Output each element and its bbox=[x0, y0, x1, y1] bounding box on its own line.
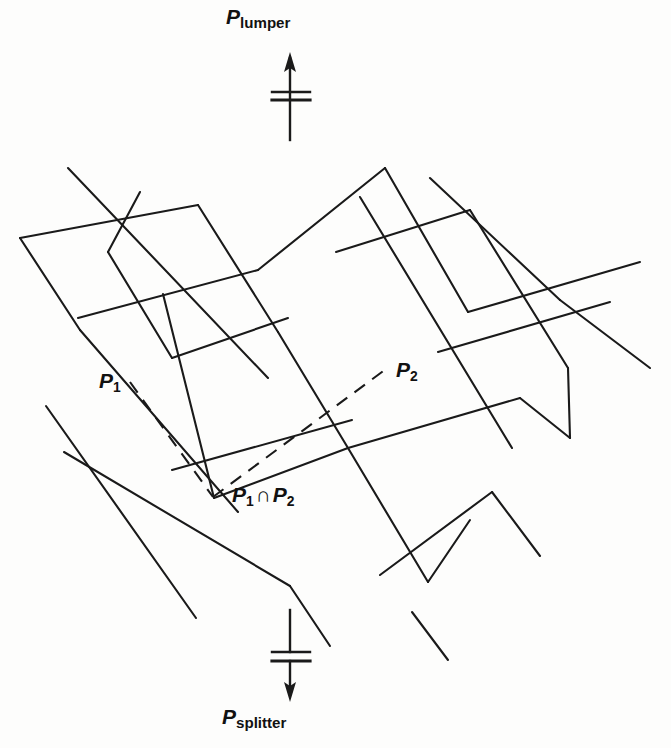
label-intersect-left-subscript: 1 bbox=[246, 493, 254, 509]
label-p1-intersect-p2: P1∩P2 bbox=[232, 484, 295, 509]
lattice-line bbox=[468, 262, 640, 312]
label-p2-symbol: P bbox=[396, 358, 410, 381]
lattice-line bbox=[428, 520, 470, 582]
label-intersect-right-symbol: P bbox=[273, 483, 287, 506]
splitter-arrow-symbol bbox=[272, 610, 310, 702]
lattice-line bbox=[20, 238, 80, 330]
lattice-line bbox=[385, 168, 468, 312]
lattice-line bbox=[290, 586, 330, 646]
lattice-line bbox=[560, 300, 650, 368]
label-p2: P2 bbox=[396, 359, 418, 384]
label-p-lumper: Plumper bbox=[226, 6, 290, 30]
lattice-line bbox=[520, 398, 570, 438]
lattice-line bbox=[64, 452, 290, 586]
label-p1-symbol: P bbox=[99, 369, 113, 392]
lattice-line bbox=[172, 318, 288, 358]
lattice-line bbox=[438, 302, 610, 352]
lattice-solid-lines bbox=[20, 168, 650, 660]
lumper-arrow-symbol bbox=[272, 52, 310, 140]
label-intersect-right-subscript: 2 bbox=[287, 493, 295, 509]
label-p-splitter-symbol: P bbox=[222, 705, 236, 728]
lattice-line bbox=[470, 210, 568, 368]
lattice-line bbox=[198, 205, 278, 332]
lattice-line bbox=[568, 368, 570, 438]
label-intersect-left-symbol: P bbox=[232, 483, 246, 506]
lattice-line bbox=[108, 192, 140, 252]
label-p-splitter: Psplitter bbox=[222, 706, 286, 730]
lattice-line bbox=[492, 492, 540, 556]
lattice-line bbox=[380, 492, 492, 575]
lattice-line bbox=[68, 168, 268, 378]
p2-dashed-line bbox=[213, 369, 386, 497]
label-p2-subscript: 2 bbox=[410, 368, 418, 384]
label-p1: P1 bbox=[99, 370, 121, 395]
label-p-lumper-symbol: P bbox=[226, 5, 240, 28]
lattice-line bbox=[258, 168, 385, 270]
lattice-line bbox=[172, 420, 352, 470]
lattice-line bbox=[163, 294, 214, 498]
intersection-operator-icon: ∩ bbox=[254, 483, 273, 506]
label-p-splitter-subscript: splitter bbox=[236, 714, 286, 731]
lattice-line bbox=[348, 448, 428, 582]
p1-dashed-line bbox=[130, 382, 213, 497]
lattice-line bbox=[412, 612, 448, 660]
label-p-lumper-subscript: lumper bbox=[240, 14, 290, 31]
figure-canvas: Plumper Psplitter P1 P2 P1∩P2 bbox=[0, 0, 671, 748]
lattice-line bbox=[336, 210, 470, 252]
label-p1-subscript: 1 bbox=[113, 379, 121, 395]
lattice-line bbox=[348, 398, 520, 448]
